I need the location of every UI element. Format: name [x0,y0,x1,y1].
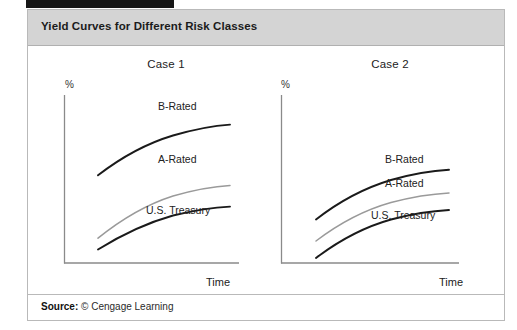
source-label: Source: [41,301,78,312]
case-2-label-b-rated: B-Rated [385,153,424,165]
case-1-label-a-rated: A-Rated [158,153,197,165]
figure-container: Yield Curves for Different Risk Classes … [27,9,505,321]
figure-source-band: Source: © Cengage Learning [28,294,504,320]
case-1-label-b-rated: B-Rated [158,100,197,112]
figure-source-text: Source: © Cengage Learning [41,301,173,312]
source-value: © Cengage Learning [81,301,173,312]
figure-title: Yield Curves for Different Risk Classes [41,20,257,32]
case-1-panel: Case 1 % Time B-Rated A-Rated U.S. Treas… [38,46,270,296]
case-2-label-treasury: U.S. Treasury [371,209,435,221]
case-1-chart-svg [38,46,270,296]
case-2-chart-svg [269,46,501,296]
top-black-tab [26,0,174,8]
case-2-panel: Case 2 % Time B-Rated A-Rated U.S. Treas… [269,46,501,296]
figure-plot-area: Case 1 % Time B-Rated A-Rated U.S. Treas… [28,46,504,294]
figure-title-band: Yield Curves for Different Risk Classes [28,10,504,46]
case-2-label-a-rated: A-Rated [385,177,424,189]
case-1-curve-b-rated [98,125,230,176]
case-1-label-treasury: U.S. Treasury [146,204,210,216]
